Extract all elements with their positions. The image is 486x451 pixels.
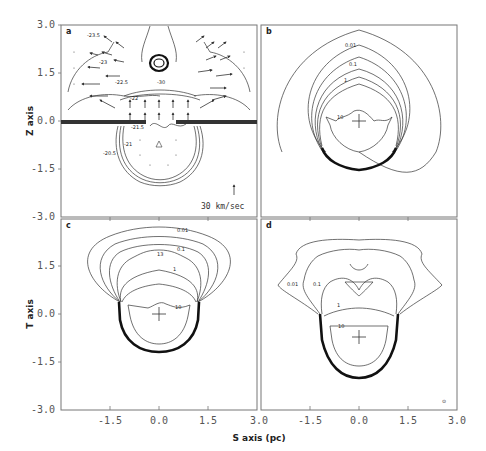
- contour-d-0.01: [278, 239, 442, 314]
- contour-label: 0.01: [287, 281, 298, 287]
- x-tick-label: 1.5: [399, 415, 417, 426]
- triangle-marker: [156, 141, 162, 147]
- contour-label: 0.1: [349, 61, 357, 67]
- y-tick-label: 3.0: [37, 19, 55, 30]
- contour-outer-right: [204, 42, 250, 92]
- contour-knot-inner: [154, 59, 164, 67]
- contour-d-hourglass: [345, 282, 373, 296]
- contour-label: -30: [157, 79, 165, 85]
- contour-c-1-inner: [122, 284, 196, 302]
- corner-mark: ⊙: [442, 398, 446, 404]
- y-tick-label: 0.0: [37, 308, 55, 319]
- contour-b-0.1-inner: [315, 69, 403, 150]
- bubble-inner: [123, 126, 196, 180]
- contour-label: 10: [175, 304, 181, 310]
- contour-label: 0.01: [177, 227, 188, 233]
- figure-canvas: a -23.5 -23 -22.5 -22 -21.5 -21 -20.5 -3…: [0, 0, 486, 451]
- contour-b-0.1: [312, 57, 407, 152]
- x-tick-label: -1.5: [98, 415, 122, 426]
- x-tick-label: 3.0: [250, 415, 268, 426]
- panel-d-frame: [261, 219, 457, 410]
- contour-label: -23.5: [87, 32, 100, 38]
- contour-label: -21: [124, 141, 132, 147]
- contour-knot-outer: [150, 55, 168, 71]
- contour-d-1-lower: [324, 308, 394, 316]
- panel-d: d 0.01 0.1 1 10 ⊙: [261, 219, 457, 410]
- contour-label: 1: [344, 77, 347, 83]
- contour-c-1: [120, 270, 197, 302]
- contour-label: -22.5: [115, 79, 128, 85]
- contour-label: 13: [157, 251, 163, 257]
- contour-c-13: [117, 250, 201, 302]
- contour-b-0.01-outer: [277, 30, 441, 172]
- bubble-mid: [119, 126, 199, 183]
- contour-b-0.01: [308, 45, 410, 152]
- y-tick-label: -1.5: [31, 163, 55, 174]
- panel-b: b 0.01 0.1 1 10: [261, 25, 457, 217]
- contour-label: -23: [99, 59, 107, 65]
- disk-plane-right: [176, 120, 257, 124]
- y-tick-label: 1.5: [37, 260, 55, 271]
- y-axis-label-top: Z axis: [25, 106, 35, 136]
- y-tick-label: 1.5: [37, 67, 55, 78]
- x-axis-label: S axis (pc): [232, 433, 285, 443]
- x-tick-label: -1.5: [298, 415, 322, 426]
- panel-a-label: a: [66, 27, 71, 36]
- y-tick-label: -3.0: [31, 404, 55, 415]
- contour-label: 1: [173, 266, 176, 272]
- x-tick-label: 1.5: [199, 415, 217, 426]
- contour-label: -22: [130, 95, 138, 101]
- y-tick-label: -1.5: [31, 356, 55, 367]
- contour-label: 10: [338, 323, 344, 329]
- contour-label: -21.5: [131, 124, 144, 130]
- panel-a: a -23.5 -23 -22.5 -22 -21.5 -21 -20.5 -3…: [61, 25, 257, 217]
- panel-c: c 0.01 0.1 13 1 10: [61, 219, 257, 410]
- contour-label: 0.1: [177, 246, 185, 252]
- contour-d-cusp: [350, 264, 368, 270]
- panel-c-label: c: [66, 221, 71, 230]
- contour-chimney: [142, 26, 177, 62]
- panel-b-label: b: [266, 27, 272, 36]
- velocity-scale-label: 30 km/sec: [201, 202, 245, 211]
- contour-b-1: [318, 77, 401, 148]
- contour-label: 1: [337, 302, 340, 308]
- y-tick-label: -3.0: [31, 211, 55, 222]
- contour-label: 0.01: [345, 42, 356, 48]
- x-tick-label: 3.0: [448, 415, 466, 426]
- y-tick-label: 0.0: [37, 115, 55, 126]
- panel-d-label: d: [266, 221, 272, 230]
- shell-d: [320, 314, 398, 378]
- bubble-cap: [150, 123, 186, 127]
- x-tick-label: 0.0: [150, 415, 168, 426]
- velocity-vectors: [82, 36, 232, 120]
- x-tick-label: 0.0: [350, 415, 368, 426]
- contour-label: 0.1: [313, 281, 321, 287]
- contour-label: -20.5: [103, 150, 116, 156]
- bubble-outer: [116, 126, 203, 186]
- grid-dots: [73, 51, 244, 165]
- contour-label: 10: [337, 114, 343, 120]
- y-axis-label-bottom: T axis: [25, 299, 35, 329]
